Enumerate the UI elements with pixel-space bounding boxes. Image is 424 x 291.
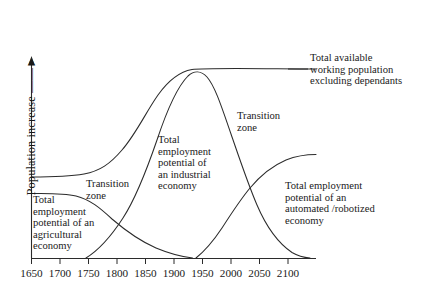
- annotation-transition-zone-second: Transition zone: [237, 110, 295, 133]
- x-tick-label: 1650: [20, 267, 43, 279]
- y-axis-label-text: Population increase: [24, 96, 38, 195]
- y-axis-label: Population increase ——►: [24, 46, 39, 206]
- annotation-available-working-population: Total available working population exclu…: [310, 52, 422, 87]
- annotation-automated-economy: Total employment potential of an automat…: [285, 180, 417, 226]
- annotation-agricultural-economy: Total employment potential of an agricul…: [33, 194, 107, 252]
- x-tick-label: 1800: [106, 267, 129, 279]
- x-tick-labels: 1650 1700 1750 1800 1850 1900 1950 2000 …: [20, 267, 299, 279]
- x-tick-label: 1700: [49, 267, 72, 279]
- x-tick-label: 1900: [163, 267, 186, 279]
- annotation-industrial-economy: Total employment potential of an industr…: [158, 134, 228, 192]
- x-tick-label: 1850: [134, 267, 157, 279]
- x-tick-label: 1750: [77, 267, 100, 279]
- x-tick-label: 2000: [220, 267, 243, 279]
- x-axis: [31, 258, 316, 264]
- x-tick-label: 2100: [277, 267, 300, 279]
- long-arrow-icon: ——►: [24, 56, 38, 93]
- x-tick-label: 2050: [248, 267, 271, 279]
- x-tick-label: 1950: [191, 267, 214, 279]
- chart-figure: 1650 1700 1750 1800 1850 1900 1950 2000 …: [0, 0, 424, 291]
